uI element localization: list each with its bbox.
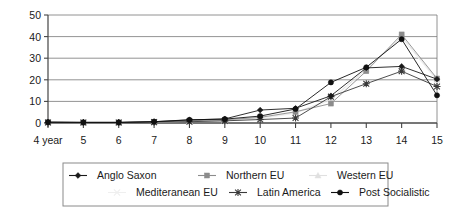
x-tick-label: 13 <box>360 134 372 146</box>
legend-label: Mediteranean EU <box>136 186 218 198</box>
data-point-star <box>292 115 299 122</box>
data-point-square <box>205 173 210 178</box>
plot-area <box>48 15 437 123</box>
x-tick-label: 5 <box>80 134 86 146</box>
data-point-circle <box>116 120 121 125</box>
x-tick-label: 14 <box>396 134 408 146</box>
y-tick-label: 20 <box>29 74 41 86</box>
line-chart: 010203040504 year56789101112131415Anglo … <box>0 0 450 213</box>
data-point-square <box>399 32 404 37</box>
x-axis: 4 year56789101112131415 <box>33 123 443 146</box>
legend-label: Western EU <box>337 169 393 181</box>
data-point-circle <box>187 117 192 122</box>
data-point-circle <box>364 65 369 70</box>
x-tick-label: 8 <box>187 134 193 146</box>
data-point-circle <box>222 117 227 122</box>
x-tick-label: 10 <box>254 134 266 146</box>
x-tick-label: 12 <box>325 134 337 146</box>
y-tick-label: 10 <box>29 95 41 107</box>
x-tick-label: 15 <box>431 134 443 146</box>
data-point-circle <box>151 119 156 124</box>
data-point-circle <box>293 106 298 111</box>
grid-group <box>48 15 437 127</box>
data-point-circle <box>337 190 342 195</box>
legend-label: Anglo Saxon <box>97 169 157 181</box>
data-point-circle <box>258 113 263 118</box>
y-tick-label: 40 <box>29 31 41 43</box>
y-tick-label: 30 <box>29 52 41 64</box>
data-point-star <box>434 83 441 90</box>
x-tick-label: 4 year <box>33 134 63 146</box>
x-tick-label: 11 <box>290 134 301 146</box>
chart-canvas: 010203040504 year56789101112131415Anglo … <box>0 0 450 213</box>
legend-label: Northern EU <box>226 169 284 181</box>
data-point-circle <box>434 93 439 98</box>
x-tick-label: 7 <box>151 134 157 146</box>
legend-label: Latin America <box>257 186 321 198</box>
legend-label: Post Socialistic <box>359 186 430 198</box>
legend: Anglo SaxonNorthern EUWestern EUMeditera… <box>63 163 430 206</box>
data-point-star <box>363 80 370 87</box>
data-point-circle <box>328 80 333 85</box>
data-point-star <box>235 189 242 196</box>
data-point-square <box>328 101 333 106</box>
y-tick-label: 50 <box>29 9 41 21</box>
x-tick-label: 6 <box>116 134 122 146</box>
x-tick-label: 9 <box>222 134 228 146</box>
data-point-circle <box>81 120 86 125</box>
data-point-circle <box>45 120 50 125</box>
y-axis: 01020304050 <box>29 9 48 129</box>
y-tick-label: 0 <box>35 117 41 129</box>
data-point-circle <box>399 37 404 42</box>
